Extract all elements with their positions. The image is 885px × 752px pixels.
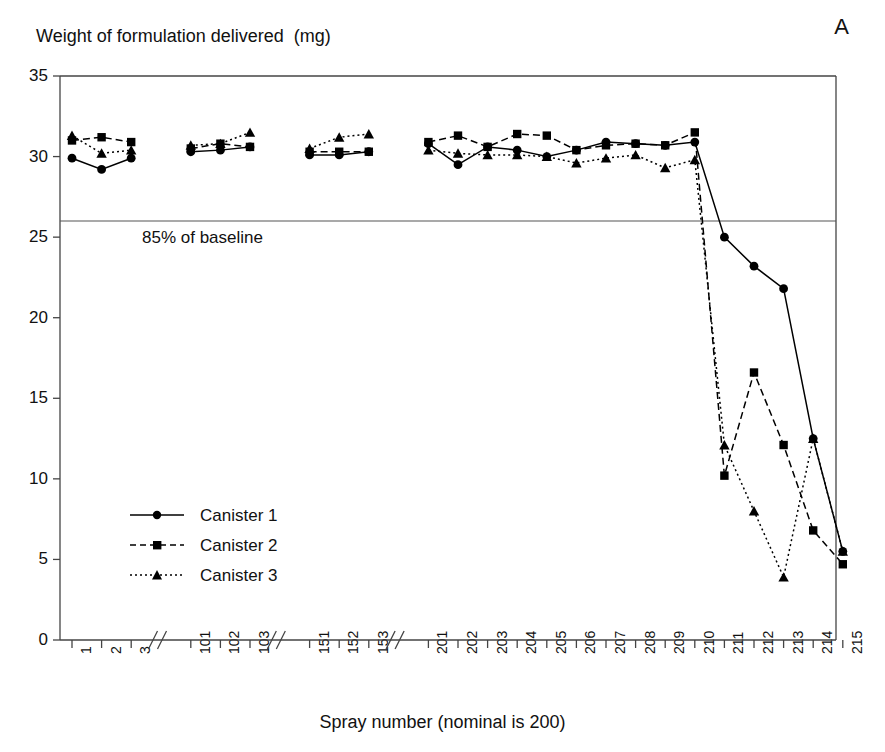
- data-point-marker: [661, 141, 669, 149]
- series-line-canister-3: [428, 150, 842, 577]
- data-point-marker: [245, 127, 255, 136]
- data-point-marker: [365, 148, 373, 156]
- data-point-marker: [97, 133, 105, 141]
- data-point-marker: [779, 441, 787, 449]
- data-point-marker: [749, 506, 759, 515]
- chart-legend: Canister 1 Canister 2 Canister 3: [128, 500, 277, 590]
- data-point-marker: [602, 141, 610, 149]
- legend-item: Canister 2: [128, 530, 277, 560]
- data-point-marker: [720, 471, 728, 479]
- data-point-marker: [543, 131, 551, 139]
- data-point-marker: [778, 572, 788, 581]
- data-point-marker: [572, 146, 580, 154]
- data-point-marker: [454, 160, 463, 169]
- data-point-marker: [691, 128, 699, 136]
- data-point-marker: [779, 284, 788, 293]
- legend-label-canister-1: Canister 1: [200, 507, 277, 524]
- data-point-marker: [424, 138, 432, 146]
- data-point-marker: [67, 131, 77, 140]
- data-point-marker: [335, 148, 343, 156]
- plot-area: [0, 0, 885, 752]
- data-point-marker: [364, 129, 374, 138]
- data-point-marker: [97, 165, 106, 174]
- data-point-marker: [96, 148, 106, 157]
- legend-item: Canister 1: [128, 500, 277, 530]
- legend-label-canister-3: Canister 3: [200, 567, 277, 584]
- data-point-marker: [454, 131, 462, 139]
- legend-key-canister-1: [128, 505, 186, 525]
- data-point-marker: [483, 143, 491, 151]
- data-point-marker: [513, 130, 521, 138]
- data-point-marker: [690, 138, 699, 147]
- data-point-marker: [246, 143, 254, 151]
- legend-key-canister-3: [128, 565, 186, 585]
- data-point-marker: [660, 163, 670, 172]
- data-point-marker: [809, 526, 817, 534]
- data-point-marker: [750, 368, 758, 376]
- data-point-marker: [631, 139, 639, 147]
- data-point-marker: [127, 138, 135, 146]
- series-line-canister-2: [428, 132, 842, 564]
- data-point-marker: [601, 153, 611, 162]
- legend-key-canister-2: [128, 535, 186, 555]
- data-point-marker: [839, 560, 847, 568]
- chart-figure: A Weight of formulation delivered (mg) S…: [0, 0, 885, 752]
- data-point-marker: [720, 233, 729, 242]
- series-line-canister-1: [428, 142, 842, 551]
- legend-label-canister-2: Canister 2: [200, 537, 277, 554]
- data-point-marker: [68, 154, 77, 163]
- data-point-marker: [750, 262, 759, 271]
- legend-item: Canister 3: [128, 560, 277, 590]
- data-point-marker: [127, 154, 136, 163]
